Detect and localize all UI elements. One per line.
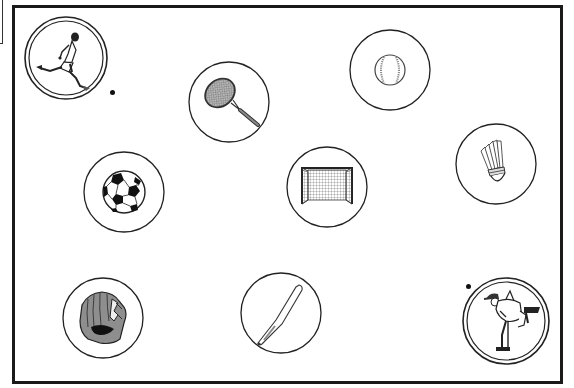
baseball-icon [349,29,431,111]
soccer-goal-icon [286,146,368,228]
baseball-glove-icon [62,277,144,359]
marker-dot-soccer-player [110,90,115,95]
baseball-glove-picture[interactable] [62,277,144,359]
soccer-player-picture[interactable] [24,16,108,100]
edge-fragment [0,0,3,44]
soccer-goal-picture[interactable] [286,146,368,228]
baseball-picture[interactable] [349,29,431,111]
baseball-bat-icon [240,272,322,354]
shuttlecock-picture[interactable] [455,123,537,205]
baseball-bat-picture[interactable] [240,272,322,354]
baseball-pitcher-picture[interactable] [462,277,550,365]
baseball-pitcher-icon [462,277,550,365]
tennis-racket-picture[interactable] [188,61,270,143]
tennis-racket-icon [188,61,270,143]
shuttlecock-icon [455,123,537,205]
soccer-player-icon [24,16,108,100]
soccer-ball-icon [83,151,165,233]
soccer-ball-picture[interactable] [83,151,165,233]
marker-dot-baseball-pitcher [466,284,471,289]
